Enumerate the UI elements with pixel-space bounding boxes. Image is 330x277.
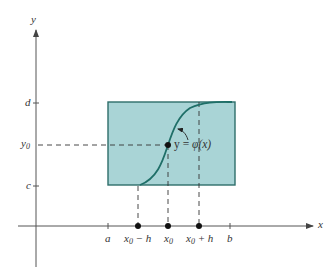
label-d: d xyxy=(25,97,31,108)
label-x0-plus-h: x0 + h xyxy=(186,233,213,246)
label-x0-minus-h: x0 − h xyxy=(124,233,151,246)
point-x0-plus-h xyxy=(196,223,202,229)
region-rectangle xyxy=(108,102,235,185)
label-c: c xyxy=(26,180,31,191)
x-axis-label: x xyxy=(318,219,323,230)
point-x0-minus-h xyxy=(135,223,141,229)
label-b: b xyxy=(227,233,233,244)
y-axis-label: y xyxy=(31,14,36,25)
point-center xyxy=(165,142,171,148)
label-a: a xyxy=(105,233,111,244)
point-x0 xyxy=(165,223,171,229)
label-y0: y0 xyxy=(21,138,30,151)
curve-label: y = φ(x) xyxy=(174,139,211,151)
label-x0: x0 xyxy=(164,233,173,246)
